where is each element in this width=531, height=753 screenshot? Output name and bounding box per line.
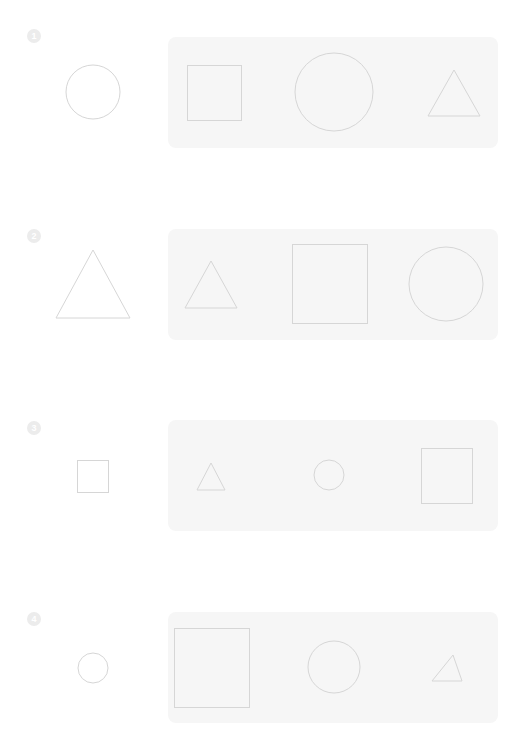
option-circle-icon[interactable] — [314, 460, 344, 490]
target-circle-icon — [78, 653, 108, 683]
option-triangle-icon[interactable] — [428, 70, 480, 116]
target-circle-icon — [66, 65, 120, 119]
option-circle-icon[interactable] — [409, 247, 483, 321]
option-square-icon[interactable] — [175, 629, 250, 708]
option-triangle-icon[interactable] — [197, 463, 225, 490]
option-square-icon[interactable] — [293, 245, 368, 324]
target-square-icon — [78, 461, 109, 493]
shapes-layer — [0, 0, 531, 753]
option-square-icon[interactable] — [188, 66, 242, 121]
option-triangle-icon[interactable] — [432, 655, 462, 681]
option-circle-icon[interactable] — [308, 641, 360, 693]
option-circle-icon[interactable] — [295, 53, 373, 131]
option-triangle-icon[interactable] — [185, 261, 237, 308]
target-triangle-icon — [56, 250, 130, 318]
option-square-icon[interactable] — [422, 449, 473, 504]
